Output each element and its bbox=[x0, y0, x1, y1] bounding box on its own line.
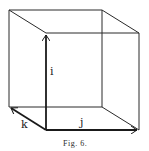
back-face bbox=[9, 10, 102, 107]
vector-j-label: j bbox=[78, 116, 83, 129]
top-left-depth-edge bbox=[9, 10, 46, 33]
vector-i-label: i bbox=[50, 65, 54, 78]
figure-caption: Fig. 6. bbox=[63, 139, 87, 148]
cube-diagram: i j k Fig. 6. bbox=[0, 0, 149, 151]
front-face bbox=[46, 33, 139, 130]
depth-edges bbox=[9, 10, 139, 130]
top-right-depth-edge bbox=[102, 10, 139, 33]
bottom-right-depth-edge bbox=[102, 107, 139, 130]
vector-k-label: k bbox=[21, 118, 28, 131]
vector-k-arrow bbox=[11, 108, 46, 130]
